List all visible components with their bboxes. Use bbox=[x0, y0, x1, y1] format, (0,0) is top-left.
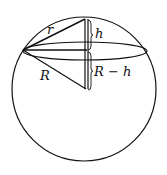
outer-circle bbox=[12, 17, 156, 161]
brace-R-minus-h bbox=[88, 52, 93, 90]
slant-R-line bbox=[23, 50, 86, 89]
label-r: r bbox=[47, 22, 54, 37]
label-h: h bbox=[95, 26, 103, 41]
label-R: R bbox=[39, 68, 50, 83]
brace-h bbox=[88, 20, 93, 50]
label-R-minus-h: R − h bbox=[93, 64, 131, 79]
sphere-cap-diagram: r h R R − h bbox=[0, 0, 167, 175]
